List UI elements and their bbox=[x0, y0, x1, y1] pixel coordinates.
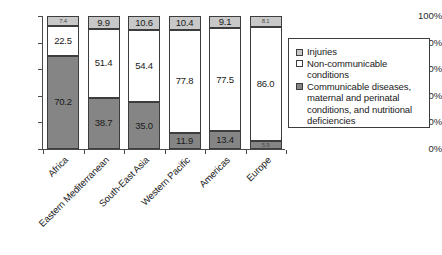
bar-segment-communicable[interactable]: 35.0 bbox=[128, 102, 160, 149]
bar-segment-noncommunicable[interactable]: 77.5 bbox=[209, 28, 241, 131]
bar-value-label: 77.8 bbox=[176, 76, 194, 86]
y-tick-mark bbox=[38, 43, 42, 44]
y-tick-mark bbox=[38, 122, 42, 123]
x-tick-mark bbox=[165, 150, 166, 154]
bar-value-label: 54.4 bbox=[135, 61, 153, 71]
bar-group[interactable]: 11.977.810.4 bbox=[169, 16, 201, 149]
communicable-swatch-icon bbox=[296, 83, 303, 90]
legend-label-noncommunicable: Non-communicable conditions bbox=[307, 58, 423, 81]
chart-legend: Injuries Non-communicable conditions Com… bbox=[288, 38, 430, 128]
y-tick-label: 100% bbox=[406, 11, 442, 21]
bar-group[interactable]: 70.222.57.4 bbox=[47, 16, 79, 149]
bar-value-label: 8.1 bbox=[262, 18, 270, 24]
bar-segment-injuries[interactable]: 10.6 bbox=[128, 16, 160, 30]
bar-segment-noncommunicable[interactable]: 22.5 bbox=[47, 26, 79, 56]
bar-segment-noncommunicable[interactable]: 86.0 bbox=[250, 27, 282, 141]
bar-value-label: 10.4 bbox=[176, 18, 194, 28]
bar-value-label: 13.4 bbox=[216, 135, 234, 145]
bar-value-label: 51.4 bbox=[95, 58, 113, 68]
legend-item-noncommunicable[interactable]: Non-communicable conditions bbox=[296, 58, 423, 81]
x-tick-mark bbox=[246, 150, 247, 154]
bar-value-label: 7.4 bbox=[59, 18, 67, 24]
bar-segment-injuries[interactable]: 8.1 bbox=[250, 16, 282, 27]
y-tick-mark bbox=[38, 69, 42, 70]
bar-segment-communicable[interactable]: 38.7 bbox=[88, 98, 120, 149]
bar-value-label: 11.9 bbox=[176, 136, 193, 146]
bar-value-label: 10.6 bbox=[135, 18, 153, 28]
bar-segment-communicable[interactable]: 11.9 bbox=[169, 133, 201, 149]
x-axis-line bbox=[42, 149, 285, 150]
bar-segment-communicable[interactable]: 5.9 bbox=[250, 141, 282, 149]
bar-value-label: 70.2 bbox=[54, 97, 72, 107]
x-tick-mark bbox=[124, 150, 125, 154]
bar-segment-injuries[interactable]: 10.4 bbox=[169, 16, 201, 30]
bar-value-label: 9.1 bbox=[219, 17, 232, 27]
bar-segment-communicable[interactable]: 70.2 bbox=[47, 56, 79, 149]
bar-value-label: 35.0 bbox=[135, 121, 153, 131]
bar-segment-injuries[interactable]: 9.9 bbox=[88, 16, 120, 29]
bar-value-label: 77.5 bbox=[216, 75, 234, 85]
legend-label-injuries: Injuries bbox=[307, 46, 337, 58]
bar-value-label: 86.0 bbox=[257, 79, 275, 89]
legend-item-communicable[interactable]: Communicable diseases, maternal and peri… bbox=[296, 81, 423, 127]
bar-segment-noncommunicable[interactable]: 51.4 bbox=[88, 29, 120, 97]
x-tick-mark bbox=[286, 150, 287, 154]
bar-segment-noncommunicable[interactable]: 77.8 bbox=[169, 30, 201, 133]
bar-group[interactable]: 35.054.410.6 bbox=[128, 16, 160, 149]
legend-item-injuries[interactable]: Injuries bbox=[296, 46, 423, 58]
x-tick-mark bbox=[43, 150, 44, 154]
x-tick-mark bbox=[84, 150, 85, 154]
y-tick-mark bbox=[38, 96, 42, 97]
legend-label-communicable: Communicable diseases, maternal and peri… bbox=[307, 81, 423, 127]
bar-value-label: 9.9 bbox=[97, 18, 110, 28]
bar-group[interactable]: 38.751.49.9 bbox=[88, 16, 120, 149]
y-tick-label: 0% bbox=[406, 144, 442, 154]
bar-group[interactable]: 5.986.08.1 bbox=[250, 16, 282, 149]
bar-value-label: 22.5 bbox=[54, 36, 72, 46]
injuries-swatch-icon bbox=[296, 49, 303, 56]
x-tick-mark bbox=[205, 150, 206, 154]
stacked-bar-chart: 0%20%40%60%80%100% 70.222.57.438.751.49.… bbox=[0, 0, 442, 255]
bar-segment-noncommunicable[interactable]: 54.4 bbox=[128, 30, 160, 102]
plot-area: 70.222.57.438.751.49.935.054.410.611.977… bbox=[43, 16, 283, 149]
bar-segment-communicable[interactable]: 13.4 bbox=[209, 131, 241, 149]
y-tick-mark bbox=[38, 16, 42, 17]
bar-value-label: 5.9 bbox=[262, 142, 270, 148]
bar-value-label: 38.7 bbox=[95, 118, 113, 128]
bar-segment-injuries[interactable]: 7.4 bbox=[47, 16, 79, 26]
noncommunicable-swatch-icon bbox=[296, 60, 303, 67]
bar-group[interactable]: 13.477.59.1 bbox=[209, 16, 241, 149]
bar-segment-injuries[interactable]: 9.1 bbox=[209, 16, 241, 28]
